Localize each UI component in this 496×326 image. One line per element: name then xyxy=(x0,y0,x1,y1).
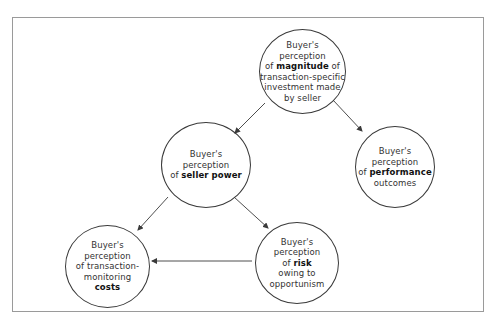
arrow-seller-power-to-costs xyxy=(138,197,168,230)
node-label: Buyer's perception of risk owing to oppo… xyxy=(270,237,325,290)
label-emphasis: costs xyxy=(95,282,121,292)
label-line: perception xyxy=(260,51,345,62)
node-risk-opportunism: Buyer's perception of risk owing to oppo… xyxy=(255,222,339,304)
label-emphasis: seller power xyxy=(181,170,242,180)
label-text: of xyxy=(282,258,293,268)
label-line: perception xyxy=(270,247,325,258)
arrow-magnitude-to-performance xyxy=(333,100,362,131)
node-label: Buyer's perception of performance outcom… xyxy=(358,146,432,188)
label-line: monitoring xyxy=(76,272,139,283)
label-emphasis: performance xyxy=(369,167,431,177)
label-line: of performance xyxy=(358,167,432,178)
node-label: Buyer's perception of magnitude of trans… xyxy=(260,40,345,103)
label-line: investment made xyxy=(260,82,345,93)
label-emphasis: risk xyxy=(293,258,311,268)
label-line: by seller xyxy=(260,93,345,104)
label-line: perception xyxy=(358,157,432,168)
node-label: Buyer's perception of seller power xyxy=(170,149,242,181)
label-line: opportunism xyxy=(270,279,325,290)
label-line: perception xyxy=(170,160,242,171)
label-line: of magnitude of xyxy=(260,61,345,72)
label-text: of xyxy=(358,167,369,177)
label-line: of transaction- xyxy=(76,261,139,272)
node-magnitude-of-investment: Buyer's perception of magnitude of trans… xyxy=(259,29,346,114)
label-line: Buyer's xyxy=(170,149,242,160)
label-line: of seller power xyxy=(170,170,242,181)
label-line: Buyer's xyxy=(260,40,345,51)
label-text: of xyxy=(265,61,276,71)
node-seller-power: Buyer's perception of seller power xyxy=(161,122,251,208)
node-monitoring-costs: Buyer's perception of transaction- monit… xyxy=(65,225,150,308)
label-line: owing to xyxy=(270,268,325,279)
label-line: Buyer's xyxy=(358,146,432,157)
label-line: of risk xyxy=(270,258,325,269)
label-line: perception xyxy=(76,251,139,262)
label-line: Buyer's xyxy=(270,237,325,248)
label-emphasis: magnitude xyxy=(276,61,329,71)
label-line: Buyer's xyxy=(76,240,139,251)
label-line: transaction-specific xyxy=(260,72,345,83)
label-text: of xyxy=(329,61,340,71)
label-line: outcomes xyxy=(358,178,432,189)
arrow-magnitude-to-seller-power xyxy=(235,103,265,133)
arrow-seller-power-to-risk xyxy=(234,197,268,228)
node-label: Buyer's perception of transaction- monit… xyxy=(76,240,139,293)
node-performance-outcomes: Buyer's perception of performance outcom… xyxy=(355,126,435,208)
label-text: of xyxy=(170,170,181,180)
label-line: costs xyxy=(76,282,139,293)
